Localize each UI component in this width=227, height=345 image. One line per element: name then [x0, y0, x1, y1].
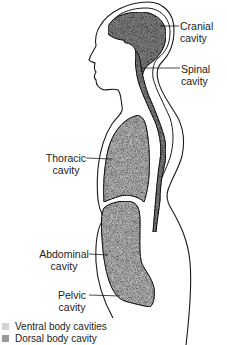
cranial-cavity-label: Cranial cavity	[180, 20, 213, 44]
body-silhouette	[0, 0, 227, 345]
pelvic-leader-line	[89, 295, 120, 296]
legend: Ventral body cavities Dorsal body cavity	[2, 321, 107, 344]
legend-item-ventral: Ventral body cavities	[2, 321, 107, 333]
spinal-cavity-label: Spinal cavity	[181, 63, 210, 87]
abdominal-cavity-label: Abdominal cavity	[38, 248, 90, 272]
ventral-swatch-icon	[2, 323, 9, 330]
pelvic-cavity-label: Pelvic cavity	[55, 289, 89, 313]
body-cavities-diagram: Cranial cavity Spinal cavity Thoracic ca…	[0, 0, 227, 345]
legend-item-dorsal: Dorsal body cavity	[2, 333, 107, 345]
thoracic-cavity-label: Thoracic cavity	[44, 152, 88, 176]
abdominopelvic-cavity-shape[interactable]	[101, 201, 154, 307]
dorsal-swatch-icon	[2, 335, 9, 342]
